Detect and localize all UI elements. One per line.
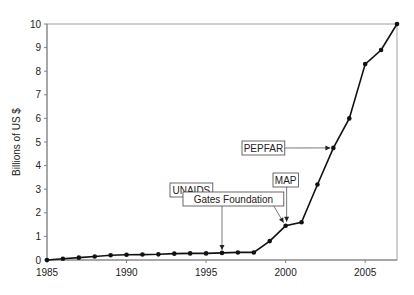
x-tick-label: 1990 [115,267,138,278]
arrow-head-icon [284,217,289,222]
data-point [204,251,209,256]
data-point [156,252,161,257]
x-tick-label: 1995 [195,267,218,278]
data-point [299,220,304,225]
y-tick-label: 9 [35,42,41,53]
data-point [379,48,384,53]
svg-text:MAP: MAP [275,175,297,186]
svg-text:Gates Foundation: Gates Foundation [194,194,274,205]
data-point [267,239,272,244]
svg-text:PEPFAR: PEPFAR [244,143,283,154]
data-point [220,251,225,256]
y-tick-label: 7 [35,89,41,100]
data-point [124,253,129,258]
x-tick-label: 1985 [36,267,59,278]
data-point [108,253,113,258]
y-tick-label: 3 [35,184,41,195]
y-tick-label: 8 [35,66,41,77]
data-point [188,251,193,256]
annotations: UNAIDSGates FoundationMAPPEPFAR [170,141,330,250]
annotation-pepfar: PEPFAR [242,141,285,155]
y-tick-label: 4 [35,160,41,171]
x-tick-label: 2005 [354,267,377,278]
x-tick-label: 2000 [275,267,298,278]
y-tick-label: 2 [35,207,41,218]
arrow-head-icon [220,245,225,250]
data-point [252,250,257,255]
y-axis-label: Billions of US $ [11,108,22,176]
data-point [140,252,145,257]
data-point [172,251,177,256]
x-axis-ticks: 19851990199520002005 [36,260,377,278]
data-point [331,146,336,151]
data-point [77,255,82,260]
y-tick-label: 1 [35,231,41,242]
data-point [283,223,288,228]
data-point [45,258,50,263]
data-point [315,182,320,187]
data-point [395,22,400,27]
annotation-map: MAP [273,173,298,187]
data-point [92,254,97,259]
data-point [363,62,368,67]
data-point [61,257,66,262]
y-tick-label: 10 [30,19,42,30]
data-point [236,250,241,255]
y-tick-label: 0 [35,255,41,266]
y-axis-ticks: 012345678910 [30,19,47,266]
y-tick-label: 5 [35,137,41,148]
line-chart: 012345678910 19851990199520002005 Billio… [0,0,414,295]
data-point [347,116,352,121]
y-tick-label: 6 [35,113,41,124]
annotation-gates-foundation: Gates Foundation [183,192,284,206]
arrow-head-icon [325,145,330,150]
